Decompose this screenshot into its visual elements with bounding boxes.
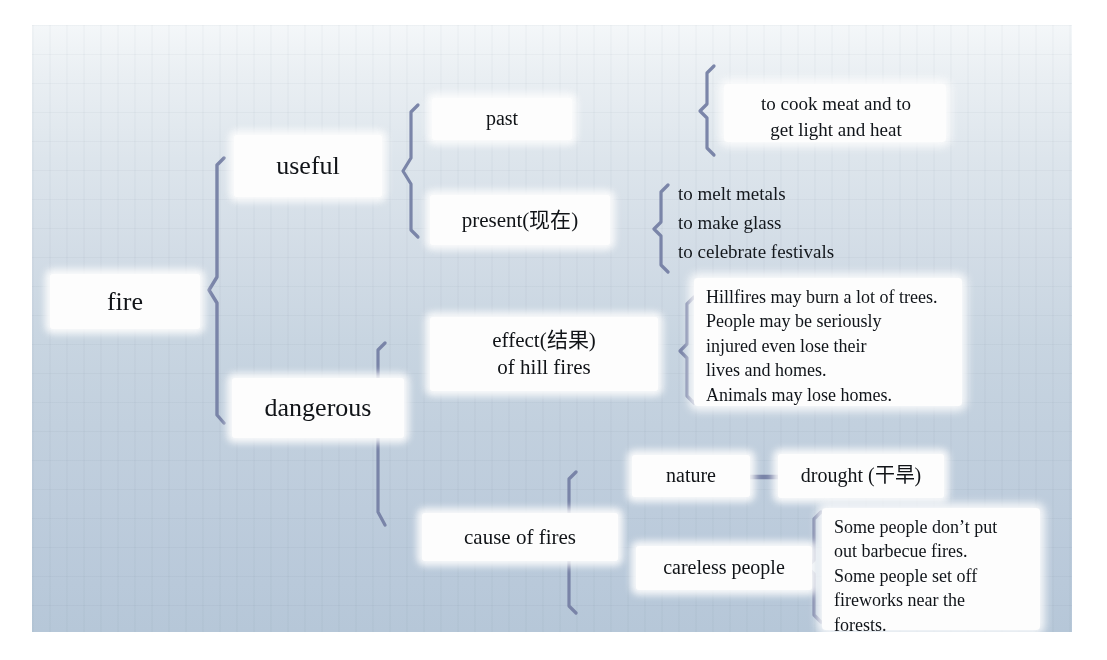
brace-past-detail [700, 66, 714, 155]
node-effect-label-line2: of hill fires [497, 354, 590, 381]
node-careless-label: careless people [663, 555, 785, 581]
detail-present-line2: to make glass [678, 209, 938, 238]
node-drought-label: drought (干旱) [801, 463, 922, 489]
detail-present: to melt metals to make glass to celebrat… [678, 180, 938, 267]
detail-past-line2: get light and heat [736, 117, 936, 143]
brace-effect-detail [680, 297, 694, 403]
node-dangerous[interactable]: dangerous [232, 378, 404, 438]
brace-fire [209, 158, 224, 423]
paper-margin [32, 0, 1072, 25]
detail-effect-line5: Animals may lose homes. [706, 383, 952, 407]
node-nature-label: nature [666, 463, 716, 489]
node-fire-label: fire [107, 285, 143, 318]
node-effect-label-line1: effect(结果) [492, 327, 595, 354]
screenshot-canvas: fire useful past present(现在) dangerous e… [0, 0, 1107, 660]
node-useful-label: useful [276, 149, 340, 182]
node-past[interactable]: past [432, 98, 572, 140]
node-past-label: past [486, 106, 518, 132]
detail-effect-line1: Hillfires may burn a lot of trees. [706, 285, 952, 309]
detail-effect-line3: injured even lose their [706, 334, 952, 358]
node-present-label: present(现在) [462, 207, 579, 234]
detail-effect: Hillfires may burn a lot of trees. Peopl… [694, 278, 962, 406]
detail-careless-line1: Some people don’t put [834, 515, 1030, 539]
node-useful[interactable]: useful [234, 135, 382, 197]
brace-useful [403, 105, 418, 237]
detail-careless-line3: Some people set off [834, 564, 1030, 588]
detail-effect-line4: lives and homes. [706, 358, 952, 382]
detail-past: to cook meat and to get light and heat [724, 84, 946, 142]
detail-careless: Some people don’t put out barbecue fires… [822, 508, 1040, 630]
detail-careless-line2: out barbecue fires. [834, 539, 1030, 563]
node-dangerous-label: dangerous [265, 391, 372, 424]
node-fire[interactable]: fire [50, 274, 200, 329]
node-present[interactable]: present(现在) [430, 195, 610, 245]
detail-careless-line4: fireworks near the [834, 588, 1030, 612]
node-nature[interactable]: nature [632, 455, 750, 497]
detail-present-line3: to celebrate festivals [678, 238, 938, 267]
node-cause-label: cause of fires [464, 524, 576, 551]
node-drought[interactable]: drought (干旱) [778, 454, 944, 498]
mind-map-panel: fire useful past present(现在) dangerous e… [32, 25, 1072, 632]
detail-effect-line2: People may be seriously [706, 309, 952, 333]
detail-past-line1: to cook meat and to [736, 91, 936, 117]
node-cause-of-fires[interactable]: cause of fires [422, 513, 618, 561]
brace-present-detail [654, 185, 668, 272]
node-effect-of-hill-fires[interactable]: effect(结果) of hill fires [430, 317, 658, 391]
node-careless-people[interactable]: careless people [636, 546, 812, 590]
detail-present-line1: to melt metals [678, 180, 938, 209]
detail-careless-line5: forests. [834, 613, 1030, 632]
